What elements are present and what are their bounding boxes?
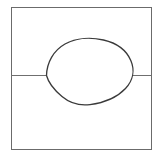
line-drawing-canvas: [0, 0, 160, 157]
figure-container: Line drawing: oval intersecting a bisect…: [0, 0, 160, 157]
figure-background: [0, 0, 160, 157]
